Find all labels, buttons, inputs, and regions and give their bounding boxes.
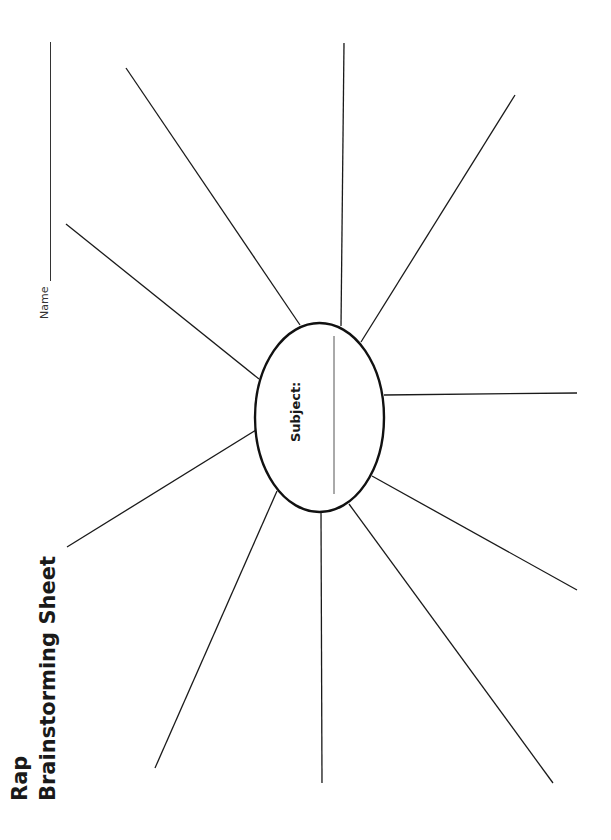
- brainstorming-worksheet: Name Subject: Rap Brainstorming Sheet: [0, 0, 611, 840]
- page-title-line2: Brainstorming Sheet: [37, 556, 59, 801]
- spoke-line-left-lower-diagonal[interactable]: [67, 430, 256, 547]
- subject-ellipse: [255, 323, 384, 512]
- spoke-line-left-upper-diagonal[interactable]: [66, 224, 259, 379]
- spoke-line-top-left-diagonal[interactable]: [126, 68, 300, 325]
- spoke-line-right-horizontal[interactable]: [384, 393, 577, 395]
- name-label: Name: [39, 287, 51, 319]
- spoke-line-top-vertical[interactable]: [341, 43, 344, 326]
- spoke-line-top-right-diagonal[interactable]: [361, 95, 515, 342]
- brainstorm-web-diagram: [0, 0, 611, 840]
- spoke-line-bottom-vertical[interactable]: [321, 512, 322, 783]
- spoke-line-lower-right-diagonal[interactable]: [372, 476, 577, 590]
- spoke-line-bottom-right-diagonal[interactable]: [349, 504, 553, 783]
- name-answer-line[interactable]: [50, 42, 51, 281]
- page-title-line1: Rap: [9, 756, 31, 801]
- spoke-line-bottom-left-diagonal[interactable]: [155, 491, 277, 768]
- subject-label: Subject:: [288, 382, 303, 442]
